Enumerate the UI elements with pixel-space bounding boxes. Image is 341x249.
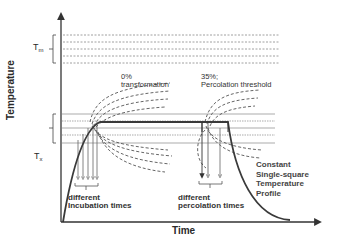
percolation-line-2: percolation times xyxy=(178,202,244,210)
zero-transformation-annotation: 0% transformation xyxy=(121,73,169,89)
percolation-brace xyxy=(199,181,222,188)
tx-subscript: x xyxy=(40,156,43,162)
y-axis-label: Temperature xyxy=(6,60,17,120)
tx-bracket xyxy=(49,114,56,143)
x-axis-label: Time xyxy=(172,226,195,237)
diagram-canvas xyxy=(0,0,341,249)
profile-annotation: Constant Single-square Temperature Profi… xyxy=(256,160,309,198)
transformation-text: transformation xyxy=(121,81,169,89)
percolation-threshold-annotation: 35%; Percolation threshold xyxy=(201,73,271,89)
tm-range-lines xyxy=(63,35,280,63)
incubation-brace xyxy=(75,183,98,190)
profile-line-2: Single-square xyxy=(256,170,309,180)
threshold-text: Percolation threshold xyxy=(201,81,271,89)
tx-label: Tx xyxy=(34,152,43,162)
temperature-time-diagram: Temperature Time Tm Tx 0% transformation… xyxy=(0,0,341,249)
tm-label: Tm xyxy=(33,43,44,53)
percolation-times-annotation: different percolation times xyxy=(178,194,244,211)
incubation-line-2: Incubation times xyxy=(68,202,132,210)
tm-subscript: m xyxy=(39,47,44,53)
incubation-c-curves xyxy=(90,83,172,172)
incubation-times-annotation: different Incubation times xyxy=(68,194,132,211)
profile-line-1: Constant xyxy=(256,160,309,170)
profile-line-4: Profile xyxy=(256,189,309,199)
profile-line-3: Temperature xyxy=(256,179,309,189)
tm-bracket xyxy=(49,35,56,63)
